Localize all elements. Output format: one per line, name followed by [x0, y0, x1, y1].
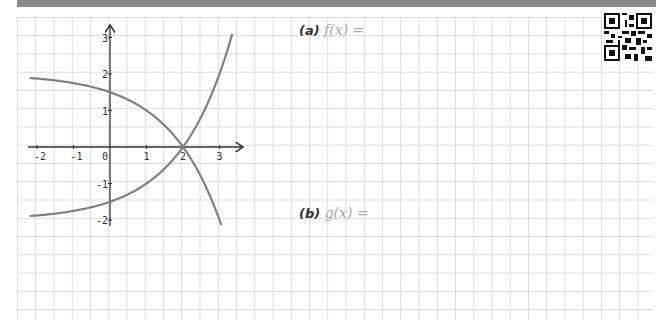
question-a: (a) f(x) =: [299, 22, 364, 38]
y-tick-label: -1: [96, 179, 108, 190]
y-tick-label: 3: [102, 33, 108, 44]
function-graph: -2-10123321-1-2: [0, 0, 663, 320]
x-tick-label: 3: [217, 151, 223, 162]
qr-code-icon[interactable]: [604, 13, 652, 61]
x-tick-label: 2: [180, 151, 186, 162]
question-b-expr: g(x) =: [325, 205, 369, 221]
question-b-part: (b): [299, 206, 320, 221]
question-b: (b) g(x) =: [299, 205, 369, 221]
question-a-part: (a): [299, 23, 320, 38]
x-tick-label: 0: [102, 151, 108, 162]
curve-g: [30, 34, 233, 216]
x-tick-label: -1: [71, 151, 83, 162]
y-tick-label: 2: [102, 69, 108, 80]
curve-f: [30, 78, 222, 225]
y-tick-label: 1: [102, 106, 108, 117]
x-tick-label: 1: [144, 151, 150, 162]
x-tick-label: -2: [34, 151, 46, 162]
y-tick-label: -2: [96, 215, 108, 226]
question-a-expr: f(x) =: [324, 22, 364, 38]
